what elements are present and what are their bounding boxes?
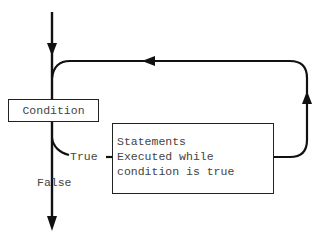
entry-arrow-icon <box>47 43 57 56</box>
condition-label: Condition <box>9 100 98 121</box>
true-label: True <box>70 149 98 164</box>
statements-line-3: condition is true <box>117 164 273 179</box>
condition-box: Condition <box>8 99 99 122</box>
statements-line-1: Statements <box>117 134 273 149</box>
statements-line-2: Executed while <box>117 149 273 164</box>
false-label: False <box>37 175 72 190</box>
statements-box: Statements Executed while condition is t… <box>112 123 274 194</box>
loop-arrow-left-icon <box>142 56 155 66</box>
loop-arrow-up-icon <box>302 91 312 104</box>
exit-arrow-icon <box>47 216 57 231</box>
true-branch-line <box>52 138 69 155</box>
